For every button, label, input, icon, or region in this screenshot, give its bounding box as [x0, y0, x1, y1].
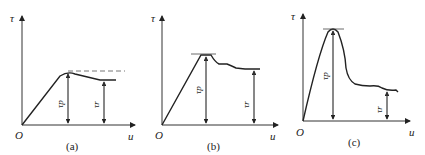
x-axis-label: u	[409, 126, 415, 138]
shear-stress-displacement-diagrams: τ u O τp τr (a) τ u O τp τr (b) τ u O	[0, 0, 425, 155]
caption: (b)	[207, 140, 220, 153]
peak-label: τp	[55, 100, 65, 108]
residual-label: τr	[374, 106, 384, 113]
stress-curve	[162, 55, 260, 125]
caption: (c)	[348, 136, 361, 149]
x-axis-label: u	[128, 130, 134, 142]
origin-label: O	[155, 129, 163, 141]
origin-label: O	[296, 126, 304, 138]
peak-label: τp	[193, 86, 203, 94]
x-axis-label: u	[270, 130, 276, 142]
residual-label: τr	[241, 101, 251, 108]
peak-label: τp	[320, 72, 330, 80]
origin-label: O	[15, 129, 23, 141]
stress-curve	[22, 73, 116, 125]
y-axis-label: τ	[151, 12, 156, 24]
y-axis-label: τ	[291, 10, 296, 22]
y-axis-label: τ	[10, 12, 15, 24]
residual-label: τr	[91, 101, 101, 108]
caption: (a)	[66, 140, 79, 153]
panel-b: τ u O τp τr (b)	[151, 12, 278, 153]
panel-c: τ u O τp τr (c)	[291, 10, 415, 149]
panel-a: τ u O τp τr (a)	[10, 12, 135, 153]
